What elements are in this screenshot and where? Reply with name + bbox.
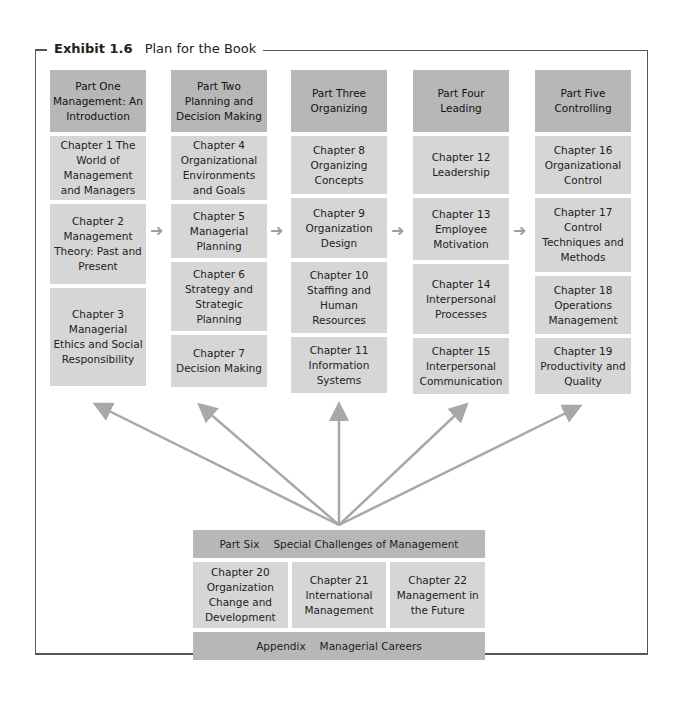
appendix-label: Appendix	[256, 640, 305, 652]
chapter-box: Chapter 22 Management in the Future	[390, 562, 485, 628]
part-six-label: Part Six	[220, 538, 260, 550]
appendix-title: Managerial Careers	[320, 640, 422, 652]
chapter-box: Chapter 20 Organization Change and Devel…	[193, 562, 288, 628]
part-six-block: Part Six Special Challenges of Managemen…	[193, 530, 485, 664]
chapter-box: Chapter 21 International Management	[292, 562, 387, 628]
part-six-header: Part Six Special Challenges of Managemen…	[193, 530, 485, 558]
appendix-box: Appendix Managerial Careers	[193, 632, 485, 660]
part-six-title: Special Challenges of Management	[273, 538, 458, 550]
